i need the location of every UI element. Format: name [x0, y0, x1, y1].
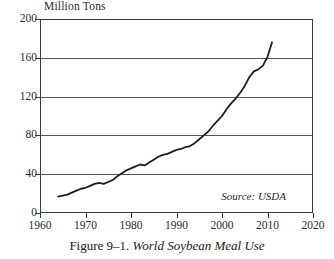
x-axis-tick-label: 2000	[199, 220, 245, 232]
figure-container: Million Tons 200 160 120 80 40 0 1960 19…	[0, 0, 334, 259]
x-axis-tick-label: 1970	[63, 220, 109, 232]
x-axis-tick-label: 1990	[154, 220, 200, 232]
x-axis-tick	[131, 213, 132, 218]
x-axis-tick-label: 1960	[17, 220, 63, 232]
x-axis-tick	[313, 213, 314, 218]
x-axis-tick-label: 1980	[108, 220, 154, 232]
figure-number: Figure 9–1.	[69, 238, 129, 253]
x-axis-tick	[268, 213, 269, 218]
y-axis-tick-label: 0	[3, 207, 37, 219]
x-axis-tick-label: 2010	[245, 220, 291, 232]
x-axis-tick	[222, 213, 223, 218]
y-axis-tick-label: 40	[3, 168, 37, 180]
x-axis-tick	[40, 213, 41, 218]
y-axis-unit-label: Million Tons	[44, 0, 106, 12]
source-note: Source: USDA	[221, 190, 286, 202]
x-axis-tick-label: 2020	[290, 220, 334, 232]
data-series-line	[40, 19, 313, 213]
y-axis-tick-label: 160	[3, 52, 37, 64]
y-axis-tick-label: 80	[3, 129, 37, 141]
figure-caption: Figure 9–1. World Soybean Meal Use	[0, 238, 334, 254]
figure-title: World Soybean Meal Use	[133, 238, 265, 253]
y-axis-tick-label: 200	[3, 13, 37, 25]
x-axis-tick	[86, 213, 87, 218]
x-axis-tick	[177, 213, 178, 218]
y-axis-tick-label: 120	[3, 91, 37, 103]
